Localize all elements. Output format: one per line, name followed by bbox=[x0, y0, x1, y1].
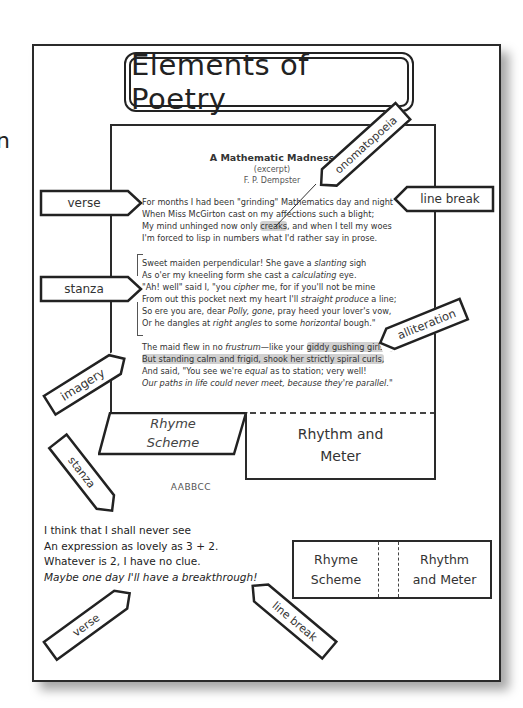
rhyme-scheme-flap[interactable]: Rhyme Scheme bbox=[98, 412, 248, 456]
example-line: I think that I shall never see bbox=[44, 523, 257, 539]
example-line: An expression as lovely as 3 + 2. bbox=[44, 539, 257, 555]
label-line: Rhyme bbox=[118, 414, 228, 433]
rhyme-scheme-value: AABBCC bbox=[146, 482, 236, 492]
example-line: Whatever is 2, I have no clue. bbox=[44, 554, 257, 570]
tag-label: line break bbox=[420, 192, 479, 206]
comparison-rhythm-meter: Rhythmand Meter bbox=[399, 542, 490, 597]
label-line: Rhythm bbox=[413, 550, 477, 570]
tag-label: stanza bbox=[64, 282, 104, 296]
label-line: Scheme bbox=[311, 570, 361, 590]
label-line: Rhythm and bbox=[298, 423, 384, 445]
rhyme-scheme-label: Rhyme Scheme bbox=[118, 414, 228, 452]
example-line: Maybe one day I'll have a breakthrough! bbox=[44, 570, 257, 586]
comparison-gap bbox=[379, 542, 399, 597]
comparison-box: RhymeScheme Rhythmand Meter bbox=[292, 540, 492, 599]
label-line: Rhyme bbox=[311, 550, 361, 570]
comparison-rhyme-scheme: RhymeScheme bbox=[294, 542, 379, 597]
label-line: and Meter bbox=[413, 570, 477, 590]
tag-verse: verse bbox=[40, 190, 142, 216]
tag-stanza: stanza bbox=[40, 276, 142, 302]
label-line: Scheme bbox=[118, 433, 228, 452]
label-line: Meter bbox=[298, 445, 384, 467]
example-poem: I think that I shall never see An expres… bbox=[44, 523, 257, 585]
tag-label: verse bbox=[67, 196, 100, 210]
tag-line-break: line break bbox=[394, 186, 494, 212]
rhythm-meter-flap[interactable]: Rhythm and Meter bbox=[245, 412, 436, 480]
